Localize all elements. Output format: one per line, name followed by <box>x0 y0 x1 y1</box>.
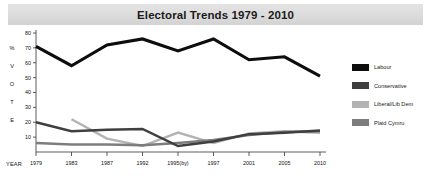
series-line-labour <box>36 39 320 76</box>
y-tick-label: 70 <box>25 45 31 51</box>
legend-item-label: Liberal/Lib Dem <box>374 101 413 107</box>
y-tick-label: 80 <box>25 30 31 36</box>
y-tick-label: 20 <box>25 119 31 125</box>
legend-swatch-icon <box>352 119 369 126</box>
legend-item: Liberal/Lib Dem <box>352 99 431 109</box>
legend-swatch-icon <box>352 82 369 89</box>
y-tick-label: 60 <box>25 60 31 66</box>
x-tick-labels: 19791983198719921995(by)1997200120052010 <box>30 160 326 166</box>
x-tick-label: 1997 <box>208 160 220 166</box>
legend-item-label: Labour <box>374 64 391 70</box>
page-title: Electoral Trends 1979 - 2010 <box>137 9 294 21</box>
x-tick-label: 1983 <box>66 160 78 166</box>
legend-item: Plaid Cymru <box>352 118 431 128</box>
y-tick-label: 10 <box>25 134 31 140</box>
y-tick-labels: 1020304050607080 <box>25 30 31 140</box>
legend-swatch-icon <box>352 101 369 108</box>
y-tick-label: 40 <box>25 89 31 95</box>
chart-legend: LabourConservativeLiberal/Lib DemPlaid C… <box>352 62 431 136</box>
y-tick-label: 30 <box>25 104 31 110</box>
x-tick-label: 1992 <box>137 160 149 166</box>
legend-item: Conservative <box>352 81 431 91</box>
legend-item: Labour <box>352 62 431 72</box>
plot-area: 1020304050607080 19791983198719921995(by… <box>0 26 340 176</box>
chart-svg: 1020304050607080 19791983198719921995(by… <box>0 26 340 176</box>
x-tick-label: 1979 <box>30 160 42 166</box>
x-tick-label: 2001 <box>243 160 255 166</box>
chart-title-bar: Electoral Trends 1979 - 2010 <box>8 4 423 25</box>
chart-figure: Electoral Trends 1979 - 2010 % V O T E Y… <box>0 0 431 176</box>
x-tick-label: 2005 <box>279 160 291 166</box>
x-tick-label: 1987 <box>101 160 113 166</box>
x-tick-label: 2010 <box>314 160 326 166</box>
legend-item-label: Plaid Cymru <box>374 120 404 126</box>
chart-series <box>36 39 320 146</box>
y-tick-label: 50 <box>25 75 31 81</box>
legend-swatch-icon <box>352 64 369 71</box>
x-tick-label: 1995(by) <box>167 160 188 166</box>
legend-item-label: Conservative <box>374 83 407 89</box>
